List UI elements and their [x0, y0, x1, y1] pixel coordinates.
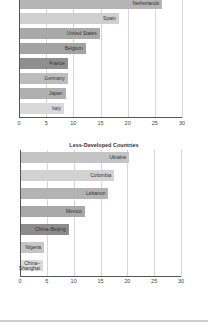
x-tick-label: 0: [18, 278, 21, 284]
x-tick-label: 25: [152, 120, 158, 126]
bar: Nigeria: [21, 242, 44, 253]
bar-label: Netherlands: [132, 1, 159, 6]
bar: Japan: [20, 88, 66, 99]
x-tick-label: 20: [125, 120, 131, 126]
bar-label: United States: [67, 31, 97, 36]
bar: France: [20, 58, 68, 69]
bar-label: Italy: [52, 106, 61, 111]
bar-label: Nigeria: [25, 245, 41, 250]
x-tick-label: 30: [179, 120, 185, 126]
bar-label: France: [49, 61, 65, 66]
x-axis: [19, 117, 182, 118]
gridline: [182, 0, 183, 118]
page-divider: [0, 320, 208, 322]
x-tick-label: 30: [178, 278, 184, 284]
bar: Ukraine: [21, 152, 129, 163]
bar: Lebanon: [21, 188, 108, 199]
bar: Colombia: [21, 170, 114, 181]
bar: United States: [20, 28, 100, 39]
bar-label: Spain: [103, 16, 116, 21]
x-tick-label: 25: [151, 278, 157, 284]
bar: Germany: [20, 73, 68, 84]
bar: Spain: [20, 13, 119, 24]
gridline: [154, 150, 155, 277]
x-axis: [20, 276, 181, 277]
gridline: [128, 0, 129, 118]
bar: China–Shanghai: [21, 260, 43, 271]
x-tick-label: 10: [71, 278, 77, 284]
bar-label: Ukraine: [109, 155, 126, 160]
bar: Mexico: [21, 206, 85, 217]
x-tick-label: 5: [45, 278, 48, 284]
plot-area: UkraineColombiaLebanonMexicoChina–Beijin…: [20, 150, 181, 277]
bar: Netherlands: [20, 0, 162, 9]
bar: Belgium: [20, 43, 86, 54]
bar-label: China–Shanghai: [19, 261, 40, 271]
gridline: [181, 150, 182, 277]
chart-title: Less-Developed Countries: [0, 142, 208, 148]
bar-label: Lebanon: [86, 191, 105, 196]
gridline: [155, 0, 156, 118]
gridline: [127, 150, 128, 277]
bar-label: Colombia: [90, 173, 111, 178]
bar-label: Mexico: [66, 209, 82, 214]
x-tick-label: 15: [97, 120, 103, 126]
x-tick-label: 20: [124, 278, 130, 284]
x-tick-label: 10: [70, 120, 76, 126]
bar: Italy: [20, 103, 64, 114]
x-tick-label: 15: [97, 278, 103, 284]
bar: China–Beijing: [21, 224, 69, 235]
developed-countries-chart: NetherlandsSpainUnited StatesBelgiumFran…: [0, 0, 208, 135]
plot-area: NetherlandsSpainUnited StatesBelgiumFran…: [19, 0, 182, 118]
bar-label: Belgium: [65, 46, 83, 51]
less-developed-countries-chart: Less-Developed Countries UkraineColombia…: [0, 135, 208, 285]
x-tick-label: 0: [17, 120, 20, 126]
bar-label: Japan: [49, 91, 63, 96]
bar-label: Germany: [44, 76, 65, 81]
bar-label: China–Beijing: [35, 227, 66, 232]
x-tick-label: 5: [45, 120, 48, 126]
